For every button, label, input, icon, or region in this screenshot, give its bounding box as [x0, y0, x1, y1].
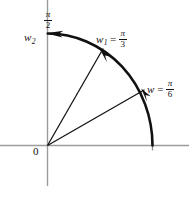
fraction-denominator: 3: [120, 40, 127, 50]
fraction-numerator: π: [167, 79, 174, 89]
fraction-denominator: 6: [167, 90, 174, 100]
equals-sign: =: [107, 34, 119, 45]
fraction-numerator: π: [45, 10, 52, 20]
variable-w2: w2: [24, 32, 35, 43]
fraction-pi-over-2: π 2: [44, 10, 52, 30]
variable-base: w: [147, 83, 154, 95]
fraction-pi-over-6: π 6: [166, 79, 174, 99]
variable-subscript: 2: [32, 37, 36, 46]
variable-w: w: [147, 84, 154, 95]
ray-to-w1: [48, 49, 104, 146]
label-w1-equals-pi-over-3: w1 = π 3: [96, 29, 127, 49]
label-pi-over-2: π 2: [44, 4, 52, 30]
variable-base: w: [24, 31, 31, 43]
ray-to-w: [48, 90, 145, 146]
variable-w1: w1: [96, 34, 107, 45]
figure-caption: [0, 190, 189, 200]
variable-base: w: [96, 33, 103, 45]
fraction-numerator: π: [120, 29, 127, 39]
variable-subscript: 1: [104, 38, 108, 47]
label-w-equals-pi-over-6: w = π 6: [147, 79, 174, 99]
equals-sign: =: [154, 84, 166, 95]
figure-container: π 2 w2 w1 = π 3: [0, 0, 189, 200]
label-w2: w2: [24, 28, 35, 44]
fraction-pi-over-3: π 3: [119, 29, 127, 49]
label-origin: 0: [33, 146, 39, 157]
directed-arc: [48, 34, 153, 146]
fraction-denominator: 2: [45, 21, 52, 31]
